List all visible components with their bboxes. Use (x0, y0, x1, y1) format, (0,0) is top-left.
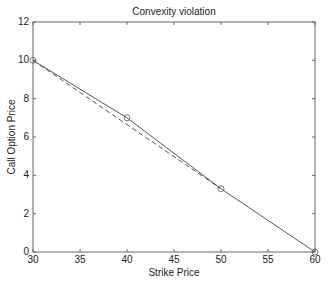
y-tick-label: 0 (23, 246, 29, 257)
y-axis: 024681012 (18, 16, 315, 257)
chart: Convexity violation 30354045505560 02468… (0, 0, 332, 282)
y-tick-label: 10 (18, 54, 30, 65)
x-tick-label: 50 (215, 254, 227, 265)
y-tick-label: 8 (23, 93, 29, 104)
chart-title: Convexity violation (132, 6, 215, 17)
plot-area (33, 22, 315, 252)
y-tick-label: 12 (18, 16, 30, 27)
x-tick-label: 45 (168, 254, 180, 265)
x-axis: 30354045505560 (27, 22, 321, 265)
y-tick-label: 2 (23, 208, 29, 219)
series-group (30, 57, 318, 255)
x-tick-label: 35 (74, 254, 86, 265)
series-line-1 (33, 60, 221, 188)
y-axis-label: Call Option Price (6, 99, 17, 174)
x-tick-label: 60 (309, 254, 321, 265)
x-axis-label: Strike Price (148, 267, 200, 278)
y-tick-label: 4 (23, 169, 29, 180)
x-tick-label: 55 (262, 254, 274, 265)
y-tick-label: 6 (23, 131, 29, 142)
x-tick-label: 30 (27, 254, 39, 265)
x-tick-label: 40 (121, 254, 133, 265)
